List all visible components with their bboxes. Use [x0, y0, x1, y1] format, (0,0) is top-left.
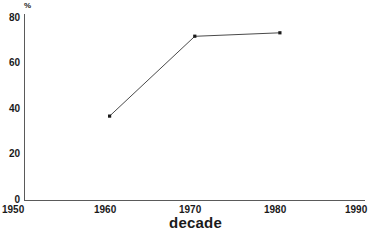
data-point-marker	[278, 31, 281, 34]
line-chart: % 80 60 40 20 0 1950 1960 1970 1980 1990…	[0, 0, 373, 236]
plot-area	[0, 0, 373, 236]
data-point-markers	[108, 31, 282, 118]
y-tick-label-40: 40	[0, 104, 20, 114]
y-axis-unit-label: %	[24, 2, 31, 10]
data-point-marker	[193, 35, 196, 38]
x-tick-label-1980: 1980	[264, 205, 286, 215]
data-series-line	[110, 33, 280, 116]
x-axis-title: decade	[0, 215, 373, 230]
x-tick-label-1990: 1990	[345, 205, 367, 215]
y-tick-label-80: 80	[0, 13, 20, 23]
x-tick-label-1950: 1950	[2, 205, 24, 215]
data-point-marker	[108, 115, 111, 118]
y-tick-label-60: 60	[0, 58, 20, 68]
x-tick-label-1960: 1960	[94, 205, 116, 215]
y-tick-label-20: 20	[0, 149, 20, 159]
